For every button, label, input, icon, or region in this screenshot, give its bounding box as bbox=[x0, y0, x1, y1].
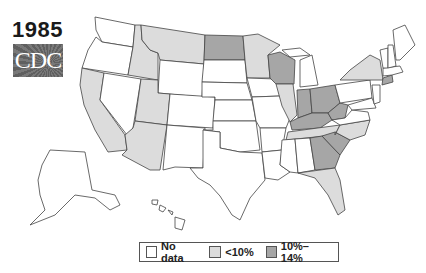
state-co bbox=[167, 94, 215, 128]
state-ak bbox=[30, 150, 120, 225]
state-vt bbox=[380, 48, 388, 68]
legend-swatch bbox=[209, 246, 221, 258]
legend: No data <10% 10%–14% bbox=[139, 242, 339, 262]
state-me bbox=[393, 25, 415, 60]
us-map bbox=[0, 0, 426, 273]
legend-item-10-14: 10%–14% bbox=[266, 240, 326, 264]
state-ne bbox=[202, 82, 252, 100]
legend-swatch bbox=[146, 246, 157, 258]
cdc-logo: CDC bbox=[13, 44, 63, 77]
state-ks bbox=[213, 100, 256, 121]
state-hi bbox=[152, 200, 185, 230]
state-ct bbox=[382, 75, 393, 85]
legend-swatch bbox=[266, 246, 277, 258]
state-wy bbox=[158, 60, 204, 97]
state-nm bbox=[163, 125, 205, 170]
legend-item-no-data: No data bbox=[146, 240, 197, 264]
state-sd bbox=[202, 60, 247, 83]
state-nd bbox=[204, 35, 245, 60]
state-fl bbox=[298, 168, 345, 215]
state-ny bbox=[340, 55, 383, 80]
legend-item-under-10: <10% bbox=[209, 246, 253, 258]
